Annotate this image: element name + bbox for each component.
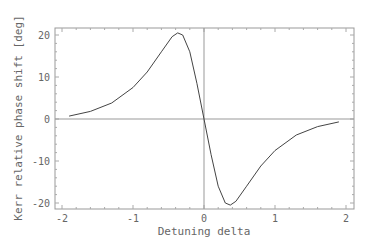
y-tick-label: 10 (38, 72, 50, 83)
y-tick-label: -20 (32, 198, 50, 209)
x-tick-label: -1 (127, 213, 139, 224)
x-tick-label: 0 (201, 213, 207, 224)
y-tick-label: -10 (32, 156, 50, 167)
x-tick-label: -2 (56, 213, 68, 224)
x-tick-label: 2 (343, 213, 349, 224)
y-tick-labels: 20100-10-20 (32, 30, 50, 209)
y-tick-label: 0 (44, 114, 50, 125)
x-tick-labels: -2-1012 (56, 213, 349, 224)
chart: -2-1012 20100-10-20 Detuning delta Kerr … (0, 0, 373, 246)
y-axis-title: Kerr relative phase shift [deg] (12, 15, 25, 220)
x-tick-label: 1 (272, 213, 278, 224)
x-axis-title: Detuning delta (158, 225, 251, 238)
y-tick-label: 20 (38, 30, 50, 41)
